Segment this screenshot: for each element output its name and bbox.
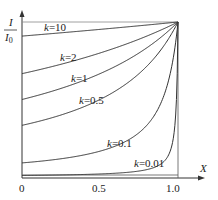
curve-label-k-2: k=2 <box>60 51 77 63</box>
curve-label-k-0.1: k=0.1 <box>107 137 132 149</box>
curve-labels-group: k=10k=2k=1k=0.5k=0.1k=0.01 <box>44 21 164 169</box>
curve-k-0.1 <box>22 22 178 163</box>
x-axis-arrow-icon <box>198 176 205 181</box>
curve-label-k-10: k=10 <box>44 21 67 33</box>
chart: k=10k=2k=1k=0.5k=0.1k=0.01 I I0 X 0 0.5 … <box>0 0 218 200</box>
x-tick-0: 0 <box>19 182 25 194</box>
x-axis-label: X <box>199 162 208 174</box>
y-axis-arrow-icon <box>20 10 25 17</box>
curve-k-1 <box>22 22 178 100</box>
curve-label-k-0.01: k=0.01 <box>134 157 164 169</box>
x-tick-1.0: 1.0 <box>166 182 180 194</box>
curve-label-k-1: k=1 <box>71 72 88 84</box>
curve-label-k-0.5: k=0.5 <box>79 94 104 106</box>
y-label-numerator: I <box>8 16 14 28</box>
y-label-denominator: I0 <box>4 31 13 45</box>
x-tick-0.5: 0.5 <box>92 182 106 194</box>
